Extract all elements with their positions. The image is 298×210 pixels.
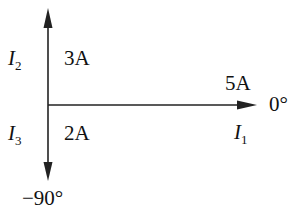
i2-label: I2 [8,48,22,69]
arrowhead-down-icon [44,162,53,181]
i3-angle: −90° [22,188,63,209]
arrowhead-up-icon [44,8,53,28]
i3-label: I3 [8,123,22,144]
i1-magnitude: 5A [225,73,251,94]
i2-magnitude: 3A [64,48,90,69]
arrowhead-right-icon [237,101,257,110]
phasor-diagram [0,0,298,210]
i3-magnitude: 2A [64,123,90,144]
i1-label: I1 [234,122,248,143]
i1-angle: 0° [269,94,288,115]
